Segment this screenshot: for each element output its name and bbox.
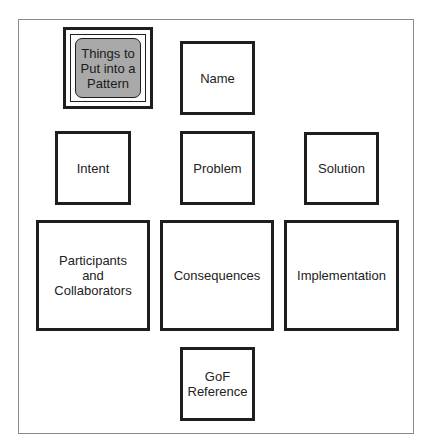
box-solution-label: Solution: [318, 161, 365, 176]
box-participants-label: Participants and Collaborators: [54, 253, 131, 298]
box-gof-reference: GoF Reference: [180, 347, 255, 421]
box-name-label: Name: [200, 71, 235, 86]
box-consequences-label: Consequences: [174, 268, 261, 283]
box-problem-label: Problem: [193, 161, 241, 176]
title-box-inner-border: Things to Put into a Pattern: [70, 34, 146, 102]
box-intent: Intent: [55, 131, 131, 205]
box-implementation-label: Implementation: [297, 268, 386, 283]
box-intent-label: Intent: [77, 161, 110, 176]
box-name: Name: [180, 41, 255, 115]
box-solution: Solution: [304, 132, 379, 205]
box-problem: Problem: [180, 131, 255, 205]
title-box: Things to Put into a Pattern: [63, 27, 153, 109]
title-box-label: Things to Put into a Pattern: [81, 46, 136, 91]
box-participants: Participants and Collaborators: [36, 220, 150, 331]
title-box-core: Things to Put into a Pattern: [75, 38, 141, 98]
box-implementation: Implementation: [284, 220, 399, 331]
box-gof-reference-label: GoF Reference: [188, 369, 248, 399]
box-consequences: Consequences: [160, 220, 274, 331]
